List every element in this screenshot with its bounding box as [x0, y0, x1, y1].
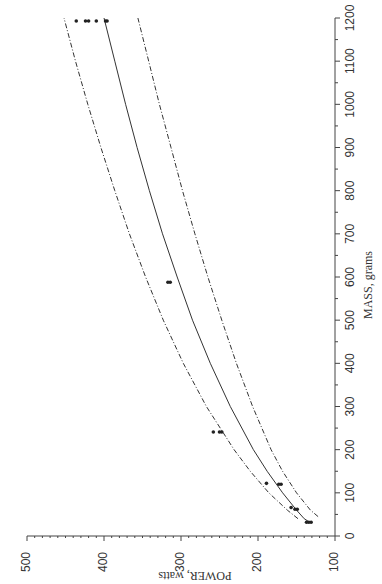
chart: 0100200300400500600700800900100011001200… — [0, 0, 382, 584]
mass-tick-label: 1000 — [343, 91, 357, 118]
mass-tick-label: 1100 — [343, 48, 357, 74]
power-tick-label: 200 — [250, 552, 264, 572]
mass-tick-label: 400 — [343, 353, 357, 373]
data-point — [104, 19, 108, 23]
data-point — [166, 280, 170, 284]
data-point — [87, 19, 91, 23]
mass-tick-label: 300 — [343, 396, 357, 416]
data-point — [289, 506, 293, 510]
mass-tick-label: 200 — [343, 439, 357, 459]
data-point — [74, 19, 78, 23]
mass-tick-label: 600 — [343, 267, 357, 287]
data-point — [277, 482, 281, 486]
data-point — [212, 430, 216, 434]
fit-curves — [64, 18, 318, 522]
power-tick-label: 300 — [173, 552, 187, 572]
axes: 0100200300400500600700800900100011001200… — [19, 4, 357, 572]
data-point — [84, 19, 88, 23]
mass-tick-label: 100 — [343, 483, 357, 503]
mass-tick-label: 1200 — [343, 4, 357, 31]
data-point — [95, 19, 99, 23]
data-point — [293, 507, 297, 511]
mass-tick-label: 800 — [343, 180, 357, 200]
curve-fit — [104, 18, 310, 522]
power-tick-label: 500 — [19, 552, 33, 572]
curve-lower-bound — [138, 18, 318, 517]
y-axis-title: POWER, watts — [158, 569, 232, 583]
data-points — [74, 19, 312, 524]
data-point — [265, 482, 269, 486]
x-axis-title: MASS, grams — [361, 251, 375, 319]
mass-tick-label: 0 — [343, 532, 357, 539]
data-point — [218, 430, 222, 434]
mass-tick-label: 700 — [343, 224, 357, 244]
curve-upper-bound — [64, 18, 298, 519]
data-point — [305, 520, 309, 524]
mass-tick-label: 500 — [343, 310, 357, 330]
power-tick-label: 400 — [96, 552, 110, 572]
mass-tick-label: 900 — [343, 137, 357, 157]
power-tick-label: 100 — [327, 552, 341, 572]
